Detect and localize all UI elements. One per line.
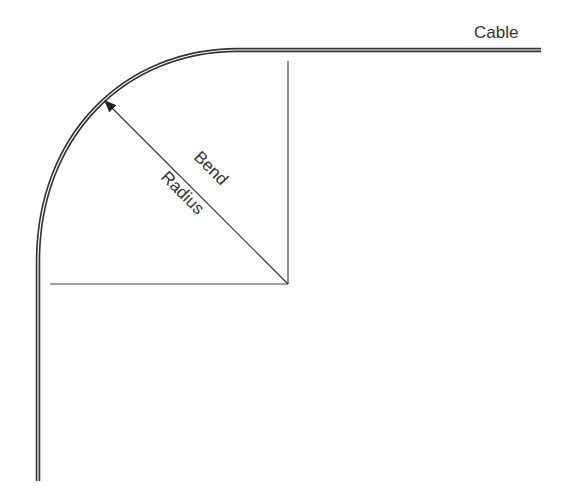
radius-label: Radius xyxy=(157,167,208,218)
cable-label: Cable xyxy=(474,23,518,42)
bend-label: Bend xyxy=(190,147,232,189)
bend-radius-diagram: Cable Bend Radius xyxy=(0,0,564,504)
cable xyxy=(38,50,541,481)
